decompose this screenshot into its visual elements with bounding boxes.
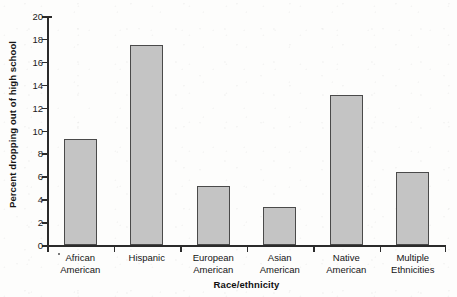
x-category-label-line1: Multiple (396, 252, 429, 263)
x-category-label-line1: European (193, 252, 234, 263)
x-category-label: AfricanAmerican (47, 252, 114, 275)
x-category-label-line1: Native (333, 252, 360, 263)
y-tick-label: 8 (38, 148, 43, 159)
bar-chart-figure: Percent dropping out of high school 0246… (0, 0, 457, 297)
y-tick-label: 18 (32, 33, 43, 44)
y-tick-label: 20 (32, 11, 43, 22)
x-axis-category-labels: AfricanAmericanHispanicEuropeanAmericanA… (47, 252, 446, 282)
x-category-label-line2: Ethnicities (380, 264, 447, 276)
y-axis-line (47, 16, 49, 245)
x-category-label-line1: Hispanic (129, 252, 165, 263)
y-tick-label: 16 (32, 56, 43, 67)
x-category-label-line2: American (313, 264, 380, 276)
bar (197, 186, 230, 245)
y-axis-title-text: Percent dropping out of high school (8, 40, 19, 207)
bar (263, 207, 296, 245)
y-axis-top-cap (47, 16, 52, 18)
y-tick-label: 12 (32, 102, 43, 113)
y-tick-label: 0 (38, 240, 43, 251)
x-axis-title: Race/ethnicity (47, 279, 446, 290)
x-category-label-line1: African (65, 252, 95, 263)
x-category-label: MultipleEthnicities (380, 252, 447, 275)
bar (396, 172, 429, 245)
y-tick-label: 10 (32, 125, 43, 136)
bar (64, 139, 97, 245)
x-category-label: EuropeanAmerican (180, 252, 247, 275)
x-category-label-line2: American (47, 264, 114, 276)
x-category-label-line2: American (180, 264, 247, 276)
plot-area: 02468101214161820 (47, 16, 446, 245)
y-tick-label: 14 (32, 79, 43, 90)
y-tick-label: 2 (38, 217, 43, 228)
x-category-label-line2: American (247, 264, 314, 276)
x-category-label: NativeAmerican (313, 252, 380, 275)
x-category-label: AsianAmerican (247, 252, 314, 275)
y-axis-title: Percent dropping out of high school (2, 0, 24, 248)
y-tick-label: 4 (38, 194, 43, 205)
y-tick-label: 6 (38, 171, 43, 182)
x-category-label: Hispanic (114, 252, 181, 264)
bar (330, 95, 363, 245)
bar (130, 45, 163, 245)
x-category-label-line1: Asian (268, 252, 292, 263)
